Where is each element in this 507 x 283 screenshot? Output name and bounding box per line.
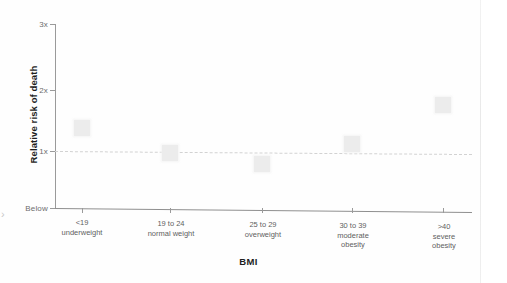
x-axis-line — [55, 208, 472, 213]
chart-figure: › Relative risk of death 3x 2x 1x Below … — [0, 0, 507, 283]
y-tick-label-1x: 1x — [39, 147, 48, 156]
data-point-1 — [162, 145, 178, 161]
x-tick-label-1: 19 to 24 normal weight — [125, 219, 217, 238]
y-tick-2x — [50, 90, 55, 91]
y-tick-label-3x: 3x — [39, 20, 48, 29]
x-tick-4 — [443, 208, 444, 213]
plot-area: 3x 2x 1x Below <19 underweight 19 to 24 … — [55, 24, 470, 208]
data-point-2 — [254, 156, 270, 172]
x-tick-label-0: <19 underweight — [36, 218, 128, 237]
x-axis-title-text: BMI — [239, 256, 258, 267]
x-tick-3 — [352, 208, 353, 213]
data-point-4 — [435, 97, 451, 113]
y-axis-line — [55, 24, 56, 208]
edge-artifact-glyph: › — [1, 209, 10, 220]
data-point-0 — [74, 120, 90, 136]
x-tick-label-2: 25 to 29 overweight — [217, 220, 309, 239]
x-tick-2 — [262, 208, 263, 213]
y-tick-label-2x: 2x — [39, 86, 48, 95]
x-tick-label-3: 30 to 39 moderate obesity — [307, 221, 399, 250]
y-axis-title: Relative risk of death — [27, 49, 41, 179]
x-tick-1 — [170, 208, 171, 213]
y-axis-title-text: Relative risk of death — [29, 65, 40, 163]
y-tick-3x — [50, 24, 55, 25]
y-tick-label-below: Below — [25, 204, 48, 213]
reference-line-1x — [55, 151, 472, 155]
x-tick-0 — [82, 208, 83, 213]
x-tick-label-4: >40 severe obesity — [398, 222, 490, 251]
data-point-3 — [344, 136, 360, 152]
x-axis-title: BMI — [0, 256, 507, 267]
